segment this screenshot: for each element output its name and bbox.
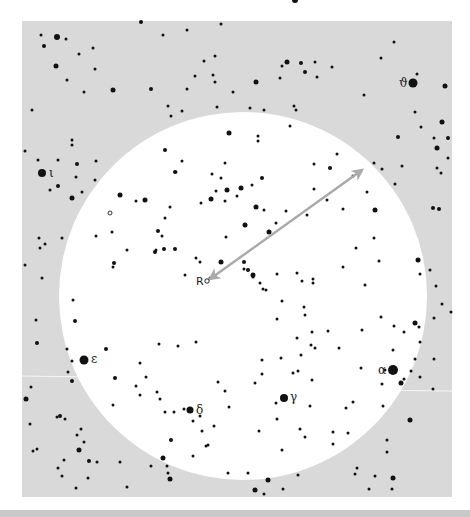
star-dot — [280, 394, 288, 402]
star-dot — [381, 168, 384, 171]
star-dot — [67, 371, 70, 374]
star-dot — [391, 476, 396, 481]
star-dot — [259, 282, 262, 285]
star-dot — [184, 274, 187, 277]
star-dot — [261, 359, 264, 362]
star-dot — [352, 401, 355, 404]
star-dot — [247, 472, 250, 475]
star-dot — [254, 80, 259, 85]
star-dot — [159, 398, 162, 401]
star-dot — [24, 264, 27, 267]
star-dot — [419, 376, 422, 379]
star-dot — [216, 106, 219, 109]
star-dot — [30, 386, 33, 389]
star-dot — [419, 273, 422, 276]
star-dot — [378, 260, 381, 263]
star-dot — [393, 41, 396, 44]
star-dot — [228, 406, 231, 409]
star-dot — [181, 160, 184, 163]
star-dot — [104, 347, 108, 351]
star-dot — [215, 190, 218, 193]
star-dot — [111, 231, 114, 234]
star-dot — [382, 405, 385, 408]
star-dot — [266, 478, 271, 483]
star-dot — [35, 341, 39, 345]
star-dot — [433, 317, 436, 320]
star-dot — [161, 235, 164, 238]
star-dot — [207, 444, 210, 447]
star-dot — [364, 284, 367, 287]
star-dot — [446, 136, 450, 140]
star-dot — [296, 272, 299, 275]
star-dot — [258, 430, 261, 433]
star-dot — [326, 199, 329, 202]
star-dot — [224, 162, 227, 165]
star-dot — [150, 465, 153, 468]
star-dot — [311, 379, 314, 382]
star-dot — [257, 135, 260, 138]
star-dot — [388, 365, 398, 375]
star-dot — [37, 159, 40, 162]
star-dot — [251, 184, 254, 187]
star-dot — [429, 269, 432, 272]
star-dot — [275, 402, 278, 405]
star-dot — [373, 208, 378, 213]
star-dot — [70, 379, 74, 383]
star-dot — [309, 405, 312, 408]
star-dot — [418, 326, 421, 329]
star-dot — [261, 373, 264, 376]
star-dot — [80, 428, 83, 431]
star-dot — [403, 378, 406, 381]
star-dot — [447, 157, 450, 160]
star-dot — [331, 66, 334, 69]
star-dot — [95, 235, 98, 238]
star-dot — [239, 186, 244, 191]
star-dot — [281, 65, 284, 68]
star-dot — [414, 111, 417, 114]
star-dot — [394, 183, 397, 186]
star-dot — [220, 23, 223, 26]
star-dot — [396, 135, 400, 139]
star-dot — [280, 357, 283, 360]
star-dot — [392, 349, 395, 352]
star-dot — [276, 318, 279, 321]
star-dot — [316, 76, 319, 79]
star-dot — [386, 451, 389, 454]
star-dot — [224, 200, 227, 203]
star-dot — [194, 75, 197, 78]
star-dot — [162, 34, 165, 37]
star-dot — [440, 172, 443, 175]
star-dot — [118, 193, 123, 198]
star-dot — [57, 159, 60, 162]
star-dot — [431, 206, 435, 210]
star-dot — [213, 425, 216, 428]
star-dot — [436, 167, 439, 170]
bottom-band — [0, 510, 470, 517]
star-dot — [243, 223, 248, 228]
star-dot — [29, 423, 32, 426]
star-dot — [167, 105, 170, 108]
star-dot — [199, 261, 202, 264]
star-dot — [391, 488, 394, 491]
star-dot — [360, 367, 363, 370]
star-label-alpha: α — [378, 363, 386, 377]
star-dot — [265, 289, 268, 292]
star-dot — [49, 189, 52, 192]
star-dot — [368, 488, 371, 491]
star-dot — [232, 91, 235, 94]
star-dot — [328, 166, 332, 170]
star-dot — [393, 325, 396, 328]
star-dot — [354, 473, 357, 476]
star-dot — [24, 397, 29, 402]
star-dot — [312, 278, 315, 281]
star-dot — [327, 330, 330, 333]
star-dot — [342, 208, 345, 211]
star-dot — [314, 61, 317, 64]
star-dot — [225, 188, 230, 193]
star-dot — [281, 300, 284, 303]
star-dot — [78, 53, 81, 56]
field-of-view-circle — [59, 112, 427, 480]
star-label-delta: δ — [196, 403, 203, 417]
star-dot — [262, 288, 265, 291]
star-dot — [420, 126, 423, 129]
